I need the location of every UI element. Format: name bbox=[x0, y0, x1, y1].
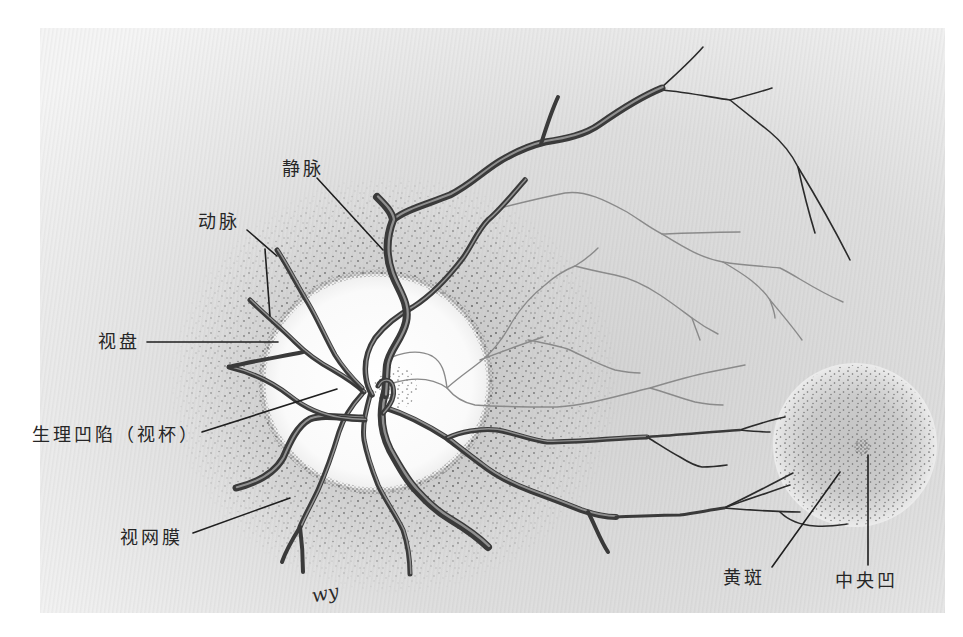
label-physiological-cup: 生理凹陷（视杯） bbox=[32, 424, 200, 445]
label-retina: 视网膜 bbox=[120, 527, 183, 548]
macula bbox=[773, 363, 937, 527]
label-vein: 静脉 bbox=[282, 158, 324, 179]
fundus-diagram: 静脉 动脉 视盘 生理凹陷（视杯） 视网膜 黄斑 中央凹 wy bbox=[0, 0, 963, 637]
label-optic-disc: 视盘 bbox=[98, 331, 140, 352]
label-fovea: 中央凹 bbox=[835, 570, 898, 591]
label-macula: 黄斑 bbox=[723, 567, 765, 588]
label-artery: 动脉 bbox=[198, 211, 240, 232]
fovea-spot bbox=[854, 439, 870, 455]
optic-disc bbox=[262, 273, 490, 491]
